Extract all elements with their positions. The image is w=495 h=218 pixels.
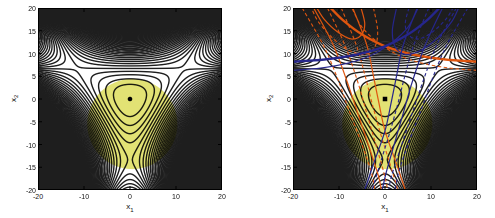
right-y-tick-label: -10: [271, 141, 291, 150]
right-y-tick-label: 20: [271, 4, 291, 13]
right-x-tick-label: 20: [465, 192, 489, 201]
right-y-tick-label: -15: [271, 163, 291, 172]
right-y-tick-label: -5: [271, 118, 291, 127]
left-y-tick-label: -10: [16, 141, 36, 150]
left-x-tick-label: 20: [210, 192, 234, 201]
right-x-tick-label: -10: [327, 192, 351, 201]
right-y-tick-label: 5: [271, 72, 291, 81]
left-x-tick-label: -10: [72, 192, 96, 201]
left-y-tick-label: 20: [16, 4, 36, 13]
left-y-tick-label: 0: [16, 95, 36, 104]
left-x-tick-label: 0: [118, 192, 142, 201]
right-x-tick-label: 0: [373, 192, 397, 201]
right-y-tick-label: 0: [271, 95, 291, 104]
right-x-tick-label: 10: [419, 192, 443, 201]
right-y-tick-label: 10: [271, 50, 291, 59]
left-y-tick-label: 15: [16, 27, 36, 36]
left-contour-plot-canvas: [38, 8, 222, 190]
left-x-tick-label: 10: [164, 192, 188, 201]
left-y-tick-label: 10: [16, 50, 36, 59]
right-y-tick-label: 15: [271, 27, 291, 36]
figure: x1 x1 x2 x2 -20-1001020-20-15-10-5051015…: [0, 0, 495, 218]
left-y-tick-label: -15: [16, 163, 36, 172]
left-plot-xaxis-label: x1: [120, 202, 140, 213]
left-y-tick-label: 5: [16, 72, 36, 81]
right-y-tick-label: -20: [271, 186, 291, 195]
right-contour-plot-canvas: [293, 8, 477, 190]
right-plot-xaxis-label: x1: [375, 202, 395, 213]
left-y-tick-label: -5: [16, 118, 36, 127]
left-y-tick-label: -20: [16, 186, 36, 195]
